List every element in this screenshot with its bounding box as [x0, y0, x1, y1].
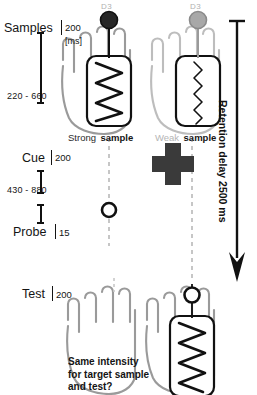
sample-label-strong-suffix: sample	[100, 132, 133, 143]
event-duration-probe: 15	[59, 228, 70, 238]
stimulator-top-right	[176, 56, 220, 126]
sample-label-weak-suffix: sample	[184, 132, 217, 143]
event-duration-samples: 200	[65, 23, 81, 33]
finger-label-top-right: D3	[190, 3, 201, 11]
unit-label-ms: [ms]	[65, 37, 82, 46]
question-block: Same intensity for target sample and tes…	[68, 356, 149, 394]
marker-test-open	[185, 288, 200, 303]
event-label-samples: Samples	[4, 22, 53, 35]
divider-probe	[55, 224, 56, 239]
question-line-1: Same intensity	[68, 356, 149, 369]
stimulator-top-left	[87, 56, 131, 126]
retention-delay-arrow	[229, 20, 245, 282]
event-label-cue: Cue	[22, 152, 45, 165]
sample-label-strong: Strong sample	[68, 128, 133, 144]
figure-canvas: D3 D3 Samples 200 [ms] 220 - 660 Cue 200…	[0, 0, 257, 395]
event-label-test: Test	[22, 288, 45, 301]
event-duration-cue: 200	[55, 153, 71, 163]
sample-label-strong-prefix: Strong	[68, 132, 96, 143]
question-line-3: and test?	[68, 381, 149, 394]
sample-label-weak-prefix: Weak	[155, 132, 179, 143]
event-duration-test: 200	[56, 290, 72, 300]
divider-cue	[51, 150, 52, 165]
marker-strong	[101, 12, 118, 29]
finger-label-top-left: D3	[101, 3, 112, 11]
marker-weak	[190, 12, 207, 29]
question-line-2: for target sample	[68, 369, 149, 382]
probe-circle	[102, 203, 116, 217]
event-label-probe: Probe	[13, 226, 46, 239]
fixation-cross	[152, 143, 194, 185]
retention-delay-label: Retention delay 2500 ms	[217, 100, 229, 223]
divider-samples	[61, 20, 62, 35]
interval-label-samples-to-cue: 220 - 660	[7, 92, 47, 101]
stimulator-bottom-right	[170, 316, 214, 395]
sample-label-weak: Weak sample	[155, 128, 216, 144]
divider-test	[52, 286, 53, 301]
interval-label-cue-to-probe: 430 - 880	[7, 186, 47, 195]
